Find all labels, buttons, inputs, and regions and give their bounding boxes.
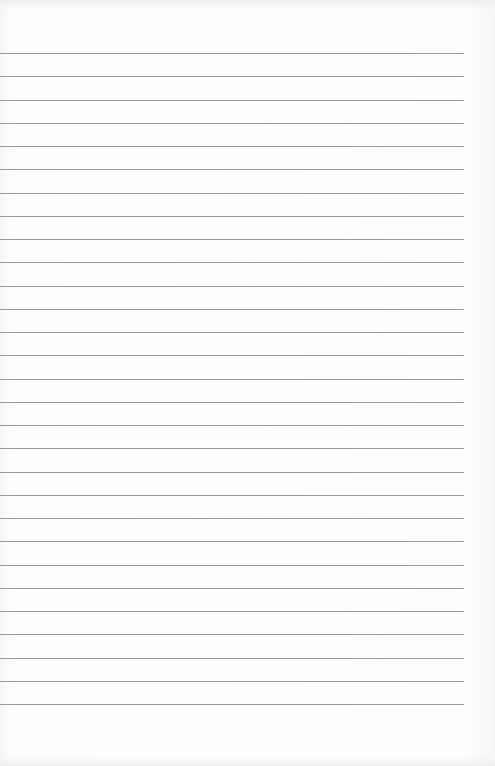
ruled-line	[0, 332, 464, 333]
ruled-line	[0, 611, 464, 612]
ruled-line	[0, 169, 464, 170]
ruled-line	[0, 309, 464, 310]
ruled-line	[0, 262, 464, 263]
ruled-line	[0, 216, 464, 217]
ruled-line	[0, 100, 464, 101]
ruled-line	[0, 518, 464, 519]
ruled-line	[0, 286, 464, 287]
ruled-line	[0, 541, 464, 542]
lined-paper-sheet	[0, 0, 495, 766]
ruled-line	[0, 658, 464, 659]
ruled-line	[0, 681, 464, 682]
ruled-line	[0, 495, 464, 496]
ruled-line	[0, 239, 464, 240]
ruled-line	[0, 472, 464, 473]
ruled-line	[0, 76, 464, 77]
ruled-line	[0, 634, 464, 635]
ruled-line	[0, 565, 464, 566]
ruled-line	[0, 425, 464, 426]
ruled-line	[0, 379, 464, 380]
ruled-line	[0, 355, 464, 356]
ruled-line	[0, 402, 464, 403]
ruled-line	[0, 53, 464, 54]
ruled-line	[0, 704, 464, 705]
ruled-line	[0, 448, 464, 449]
ruled-line	[0, 588, 464, 589]
ruled-line	[0, 146, 464, 147]
ruled-line	[0, 123, 464, 124]
ruled-line	[0, 193, 464, 194]
